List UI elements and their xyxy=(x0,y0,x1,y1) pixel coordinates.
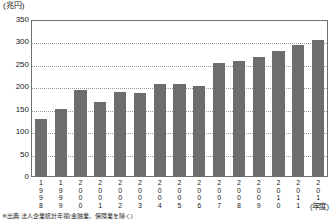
bar-slot xyxy=(253,20,265,177)
bar-slot xyxy=(312,20,324,177)
x-axis-tick-label: 2001 xyxy=(90,179,110,209)
y-axis-tick-label: 250 xyxy=(1,61,29,69)
y-axis-tick-label: 350 xyxy=(1,16,29,24)
x-axis-tick-label: 2003 xyxy=(130,179,150,209)
y-axis-tick-label: 200 xyxy=(1,83,29,91)
x-axis-tick-label: 2010 xyxy=(269,179,289,209)
bar-slot xyxy=(114,20,126,177)
x-axis-tick-label: 1998 xyxy=(31,179,51,209)
bar-slot xyxy=(233,20,245,177)
y-axis-unit-label: (兆円) xyxy=(3,1,24,10)
x-axis-tick-label: 2006 xyxy=(189,179,209,209)
x-axis-tick-label: 2008 xyxy=(229,179,249,209)
y-axis-tick-labels: 050100150200250300350 xyxy=(0,20,29,177)
bar-slot xyxy=(213,20,225,177)
x-axis-unit-label: (年度) xyxy=(310,203,329,211)
bar xyxy=(272,51,284,177)
bar xyxy=(94,102,106,177)
bar xyxy=(134,93,146,177)
bar-slot xyxy=(134,20,146,177)
bar-slot xyxy=(74,20,86,177)
x-axis-tick-label: 2009 xyxy=(249,179,269,209)
bar xyxy=(233,61,245,177)
x-axis-tick-label: 2005 xyxy=(170,179,190,209)
y-axis-tick-label: 0 xyxy=(1,173,29,181)
y-axis-tick-label: 100 xyxy=(1,128,29,136)
bars-group xyxy=(31,20,328,177)
x-axis-tick-label: 2004 xyxy=(150,179,170,209)
bar-chart: (兆円) 050100150200250300350 1998199920002… xyxy=(0,0,331,220)
x-axis-tick-label: 2011 xyxy=(288,179,308,209)
y-axis-tick-label: 300 xyxy=(1,38,29,46)
bar xyxy=(193,86,205,177)
bar-slot xyxy=(94,20,106,177)
bar xyxy=(154,84,166,177)
bar-slot xyxy=(35,20,47,177)
x-axis-tick-label: 2000 xyxy=(71,179,91,209)
x-axis-tick-labels: 1998199920002001200220032004200520062007… xyxy=(31,179,328,213)
bar-slot xyxy=(55,20,67,177)
bar-slot xyxy=(193,20,205,177)
bar xyxy=(35,119,47,177)
bar xyxy=(292,45,304,177)
bar-slot xyxy=(272,20,284,177)
bar xyxy=(74,90,86,177)
x-axis-tick-label: 2002 xyxy=(110,179,130,209)
y-axis-tick-label: 50 xyxy=(1,151,29,159)
x-axis-tick-label: 1999 xyxy=(51,179,71,209)
bar xyxy=(114,92,126,177)
bar xyxy=(312,40,324,177)
bar xyxy=(213,63,225,177)
bar xyxy=(55,109,67,177)
bar-slot xyxy=(173,20,185,177)
chart-footnote: ※出典:法人企業統計年報(金融業、保険業を除く) xyxy=(2,213,133,220)
bar xyxy=(253,57,265,177)
y-axis-tick-label: 150 xyxy=(1,106,29,114)
bar-slot xyxy=(292,20,304,177)
x-axis-tick-label: 2007 xyxy=(209,179,229,209)
bar-slot xyxy=(154,20,166,177)
bar xyxy=(173,84,185,177)
